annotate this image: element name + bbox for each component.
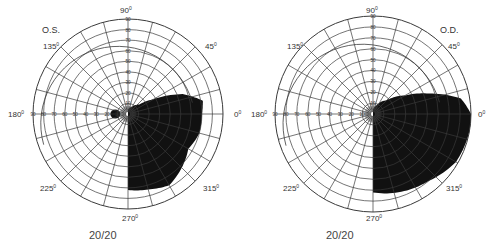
angle-label-45-left: 450 <box>205 41 217 51</box>
visual-field-figure: 101020203030404050506060707080809090 101… <box>0 0 495 249</box>
radial-tick-label: 90 <box>30 112 36 117</box>
meridian-line <box>81 118 126 197</box>
radial-tick-label: 30 <box>370 79 376 84</box>
radial-tick-label: 70 <box>370 36 376 41</box>
radial-tick-label: 80 <box>283 112 289 117</box>
radial-tick-label: 50 <box>125 59 131 64</box>
radial-tick-label: 20 <box>349 112 355 117</box>
radial-tick-label: 80 <box>370 25 376 30</box>
radial-tick-label: 30 <box>338 112 344 117</box>
meridian-line <box>103 118 126 206</box>
angle-label-180-left: 1800 <box>8 109 24 119</box>
angle-label-180-right: 1800 <box>251 109 267 119</box>
meridian-line <box>324 118 371 199</box>
radial-tick-label: 50 <box>73 112 79 117</box>
radial-tick-label: 40 <box>370 68 376 73</box>
angle-label-45-right: 450 <box>448 41 460 51</box>
eye-label-left: O.S. <box>42 25 60 35</box>
meridian-line <box>61 117 125 181</box>
radial-tick-label: 50 <box>370 58 376 63</box>
radial-tick-label: 40 <box>125 70 131 75</box>
radial-tick-label: 70 <box>125 38 131 43</box>
angle-label-135-right: 1350 <box>287 41 303 51</box>
radial-tick-label: 10 <box>370 101 376 106</box>
radial-tick-label: 20 <box>370 90 376 95</box>
angle-label-225-right: 2250 <box>283 183 299 193</box>
radial-tick-label: 40 <box>327 112 333 117</box>
meridian-line <box>278 115 368 139</box>
meridian-line <box>81 32 126 111</box>
meridian-line <box>278 89 368 113</box>
meridian-line <box>288 116 369 163</box>
meridian-line <box>61 47 125 111</box>
angle-label-315-left: 3150 <box>203 183 219 193</box>
meridian-line <box>36 89 124 112</box>
meridian-line <box>46 116 125 161</box>
meridian-line <box>374 19 398 109</box>
radial-tick-label: 40 <box>83 112 89 117</box>
meridian-line <box>288 65 369 112</box>
radial-tick-label: 60 <box>62 112 68 117</box>
radial-tick-label: 30 <box>125 80 131 85</box>
radial-tick-label: 10 <box>125 101 131 106</box>
angle-label-270-right: 2700 <box>366 213 382 223</box>
radial-tick-label: 50 <box>316 112 322 117</box>
angle-label-90-right: 900 <box>366 5 378 15</box>
radial-tick-label: 70 <box>52 112 58 117</box>
meridian-line <box>304 117 370 183</box>
acuity-label-right: 20/20 <box>326 229 354 241</box>
meridian-line <box>103 22 126 110</box>
meridian-line <box>129 22 152 110</box>
angle-label-315-right: 3150 <box>446 183 462 193</box>
radial-tick-label: 90 <box>272 112 278 117</box>
left-eye-visual-field-chart: 101020203030404050506060707080809090 <box>30 17 223 209</box>
meridian-line <box>36 115 124 138</box>
radial-tick-label: 60 <box>125 49 131 54</box>
meridian-line <box>324 29 371 110</box>
angle-label-225-left: 2250 <box>40 183 56 193</box>
angle-label-135-left: 1350 <box>43 41 59 51</box>
radial-tick-label: 20 <box>104 112 110 117</box>
radial-tick-label: 60 <box>370 47 376 52</box>
angle-label-0-left: 00 <box>234 109 241 119</box>
acuity-label-left: 20/20 <box>89 229 117 241</box>
meridian-line <box>348 118 372 208</box>
eye-label-right: O.D. <box>440 25 459 35</box>
radial-tick-label: 80 <box>41 112 47 117</box>
radial-tick-label: 90 <box>125 17 131 22</box>
angle-label-270-left: 2700 <box>122 213 138 223</box>
radial-tick-label: 60 <box>305 112 311 117</box>
radial-tick-label: 80 <box>125 28 131 33</box>
radial-tick-label: 20 <box>125 91 131 96</box>
meridian-line <box>46 67 125 112</box>
angle-label-0-right: 00 <box>478 109 485 119</box>
meridian-line <box>348 19 372 109</box>
radial-tick-label: 70 <box>294 112 300 117</box>
radial-tick-label: 10 <box>360 112 366 117</box>
meridian-line <box>304 45 370 111</box>
angle-label-90-left: 900 <box>120 5 132 15</box>
radial-tick-label: 10 <box>115 112 121 117</box>
radial-tick-label: 30 <box>94 112 100 117</box>
